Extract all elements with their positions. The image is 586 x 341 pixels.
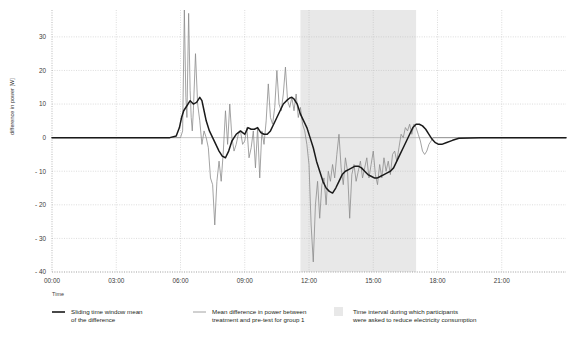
- legend-label-line2: treatment and pre-test for group 1: [212, 316, 305, 323]
- reduction-interval-shading: [300, 10, 416, 272]
- y-tick-label: - 40: [35, 268, 46, 275]
- x-tick-label: 03:00: [108, 277, 124, 284]
- y-tick-label: 30: [39, 33, 47, 40]
- y-axis-title: difference in power [W]: [9, 78, 15, 135]
- legend-label-line1: Sliding time window mean: [71, 308, 143, 315]
- y-tick-label: - 20: [35, 201, 46, 208]
- legend-label-line1: Mean difference in power between: [212, 308, 307, 315]
- legend-label-line1: Time interval during which participants: [353, 308, 458, 315]
- x-tick-label: 09:00: [237, 277, 253, 284]
- x-tick-label: 00:00: [44, 277, 60, 284]
- y-tick-label: - 10: [35, 168, 46, 175]
- y-tick-label: 20: [39, 67, 47, 74]
- y-tick-label: 0: [42, 134, 46, 141]
- x-tick-label: 15:00: [365, 277, 381, 284]
- y-tick-label: 10: [39, 100, 47, 107]
- y-tick-label: - 30: [35, 235, 46, 242]
- legend-label-line2: of the difference: [71, 316, 116, 323]
- x-tick-label: 18:00: [430, 277, 446, 284]
- shaded-interval-region: [300, 10, 416, 272]
- x-tick-label: 06:00: [173, 277, 189, 284]
- chart-background: [0, 0, 586, 341]
- x-tick-label: 21:00: [494, 277, 510, 284]
- legend-swatch-icon: [334, 307, 343, 316]
- power-difference-chart: 3020100- 10- 20- 30- 4000:0003:0006:0009…: [0, 0, 586, 341]
- x-axis-title: Time: [52, 291, 64, 297]
- x-tick-label: 12:00: [301, 277, 317, 284]
- legend-label-line2: were asked to reduce electricity consump…: [352, 316, 477, 323]
